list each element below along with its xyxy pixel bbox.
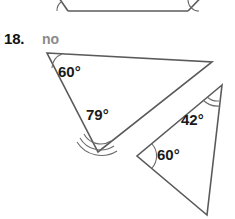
- problem-number: 18.: [4, 30, 24, 47]
- angle-42-small-label: 42°: [181, 111, 204, 128]
- problem-figure-panel: 60° 79° 42° 60° 18. no: [0, 0, 235, 219]
- cut-off-shape-left-angle-arc: [57, 2, 61, 11]
- angle-79-large-label: 79°: [86, 106, 109, 123]
- angle-60-small-arc-1: [152, 144, 157, 168]
- angle-79-large-arc-1: [84, 134, 111, 144]
- large-triangle: 60° 79°: [47, 53, 212, 155]
- angle-60-large-label: 60°: [58, 63, 81, 80]
- angle-79-large-arcs: [77, 134, 117, 155]
- angle-42-small-arc-1: [207, 97, 219, 101]
- problem-answer: no: [42, 31, 59, 47]
- small-triangle: 42° 60°: [137, 85, 222, 215]
- geometry-figure: 60° 79° 42° 60°: [0, 0, 235, 219]
- cut-off-shape-top: [48, 0, 212, 11]
- cut-off-shape-right-edge: [188, 0, 212, 11]
- angle-60-small-label: 60°: [157, 146, 180, 163]
- angle-60-small-arcs: [152, 144, 157, 168]
